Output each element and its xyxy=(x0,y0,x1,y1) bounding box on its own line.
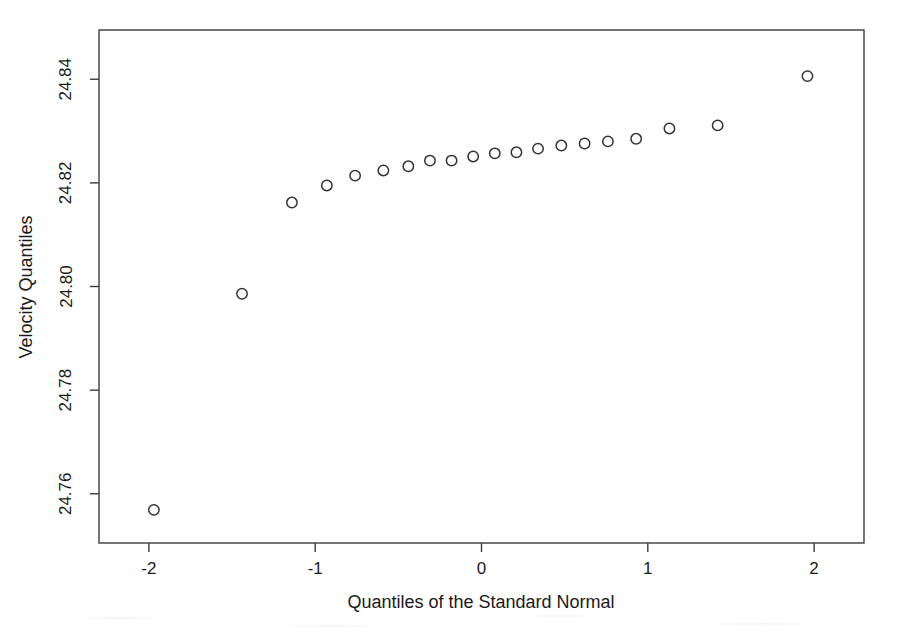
scatter-point xyxy=(237,289,247,299)
plot-canvas: 24.7624.7824.8024.8224.84 -2-1012 Quanti… xyxy=(0,0,902,640)
scatter-point xyxy=(533,143,543,153)
scatter-point xyxy=(603,136,613,146)
scatter-point xyxy=(631,134,641,144)
scatter-point xyxy=(556,140,566,150)
scatter-point xyxy=(468,151,478,161)
scatter-point xyxy=(403,161,413,171)
y-tick-label: 24.76 xyxy=(57,472,76,515)
y-tick-label: 24.78 xyxy=(57,369,76,412)
scatter-point xyxy=(712,120,722,130)
scatter-point xyxy=(350,170,360,180)
x-axis-title: Quantiles of the Standard Normal xyxy=(347,592,614,612)
scatter-point xyxy=(490,148,500,158)
qq-plot-figure: 24.7624.7824.8024.8224.84 -2-1012 Quanti… xyxy=(0,0,902,640)
x-axis-tick-labels: -2-1012 xyxy=(141,559,819,578)
scatter-point xyxy=(322,180,332,190)
y-axis-ticks xyxy=(90,79,99,494)
x-tick-label: -2 xyxy=(141,559,156,578)
scatter-point xyxy=(511,147,521,157)
x-tick-label: 2 xyxy=(809,559,818,578)
x-tick-label: 0 xyxy=(477,559,486,578)
scatter-point xyxy=(425,155,435,165)
scatter-point xyxy=(149,505,159,515)
scatter-point xyxy=(287,197,297,207)
x-tick-label: 1 xyxy=(643,559,652,578)
y-tick-label: 24.80 xyxy=(57,265,76,308)
x-tick-label: -1 xyxy=(308,559,323,578)
scatter-point xyxy=(446,155,456,165)
y-axis-title: Velocity Quantiles xyxy=(16,215,36,358)
y-tick-label: 24.84 xyxy=(57,58,76,101)
plot-panel-frame xyxy=(99,30,864,543)
y-axis-tick-labels: 24.7624.7824.8024.8224.84 xyxy=(57,58,76,515)
scatter-point xyxy=(802,71,812,81)
scatter-point xyxy=(664,123,674,133)
scatter-point xyxy=(579,138,589,148)
y-tick-label: 24.82 xyxy=(57,162,76,205)
scatter-point xyxy=(378,165,388,175)
scatter-points-group xyxy=(149,71,813,515)
x-axis-ticks xyxy=(149,543,814,552)
